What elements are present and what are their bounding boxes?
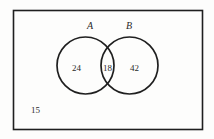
set-a-label: A — [87, 21, 93, 31]
set-b-only-count: 42 — [130, 64, 139, 73]
outside-count: 15 — [31, 106, 40, 115]
venn-diagram-figure: A B 24 18 42 15 — [0, 0, 214, 139]
set-b-label: B — [126, 21, 132, 31]
intersection-count: 18 — [103, 64, 112, 73]
set-a-only-count: 24 — [72, 64, 81, 73]
